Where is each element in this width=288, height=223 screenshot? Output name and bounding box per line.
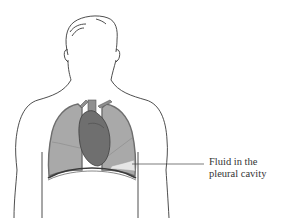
left-lung [48,104,82,176]
callout-label: Fluid in the pleural cavity [209,156,266,180]
callout-line-2: pleural cavity [209,168,266,180]
callout-line-1: Fluid in the [209,156,266,168]
anatomy-diagram [0,0,288,223]
